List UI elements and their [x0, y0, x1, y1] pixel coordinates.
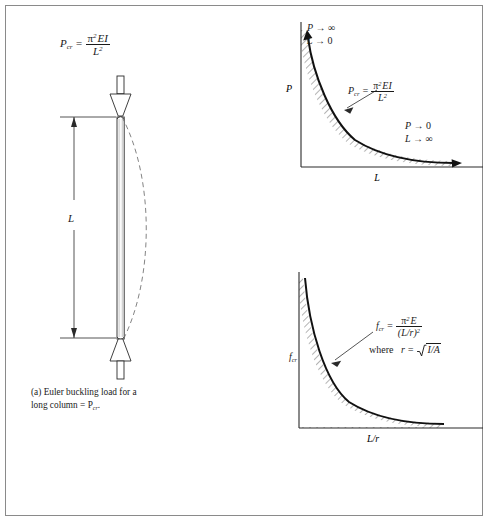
- chart-b-curve-formula: Pcr = π2 EI L2: [348, 80, 394, 103]
- panel-b-chart: P L P → ∞ L → 0 P → 0 L → ∞ Pcr = π2 EI …: [245, 0, 489, 240]
- caption-a-text: (a) Euler buckling load for a long colum…: [31, 387, 137, 410]
- chart-c-where-clause: where r = I/A: [369, 343, 441, 355]
- chart-b-annotation-bottom-line1: P → 0: [405, 120, 433, 133]
- top-knife-edge-support: [110, 94, 131, 116]
- dimension-line-L: [71, 117, 77, 338]
- chart-c-callout-arrow: [331, 361, 341, 367]
- bottom-support-rod: [117, 361, 124, 379]
- radical-expression: I/A: [417, 343, 441, 355]
- caption-a: (a) Euler buckling load for a long colum…: [31, 386, 221, 411]
- chart-b-annotation-top: P → ∞ L → 0: [307, 22, 335, 47]
- formula-a-numerator: π2 EI: [86, 32, 110, 44]
- chart-c-formula-fraction: π2 E (L/r)2: [396, 315, 422, 338]
- where-var: r: [401, 344, 405, 355]
- chart-b-x-tick-label: L: [373, 172, 380, 183]
- panel-a-column-diagram: Pcr = π2 EI L2: [0, 0, 245, 522]
- formula-a-lhs: P: [60, 37, 67, 49]
- chart-c-callout-leader: [335, 332, 373, 360]
- dimension-label-L: L: [68, 212, 74, 224]
- radicand: I/A: [426, 343, 441, 355]
- caption-a-tail: .: [98, 400, 100, 410]
- buckled-shape-dashed: [122, 117, 146, 338]
- chart-c-curve-formula: fcr = π2 E (L/r)2: [376, 315, 422, 338]
- chart-b-annotation-top-line2: L → 0: [307, 35, 335, 48]
- chart-b-curve-arrow-right: [452, 159, 462, 167]
- panel-a-formula: Pcr = π2 EI L2: [60, 32, 110, 58]
- where-equals: =: [407, 344, 414, 355]
- column-drawing: [50, 72, 195, 384]
- chart-c-x-tick-label: L/r: [366, 433, 379, 444]
- chart-b-formula-fraction: π2 EI L2: [371, 80, 394, 103]
- chart-b-annotation-bottom-line2: L → ∞: [405, 133, 433, 146]
- formula-a-numerator-rest: EI: [98, 32, 108, 44]
- formula-a-den-exp: 2: [99, 46, 103, 54]
- formula-a-denominator: L2: [86, 44, 110, 57]
- chart-b-annotation-bottom: P → 0 L → ∞: [405, 120, 433, 145]
- formula-a-lhs-sub: cr: [67, 43, 73, 51]
- column-member: [117, 117, 124, 340]
- panel-c-chart: L/r fcr fcr = π2 E (L/r)2 where r = I/A: [245, 240, 489, 522]
- chart-b-annotation-top-line1: P → ∞: [307, 22, 335, 35]
- chart-b-y-tick-label: P: [285, 83, 292, 94]
- formula-a-fraction: π2 EI L2: [86, 32, 110, 58]
- chart-c-y-tick-label: fcr: [289, 351, 297, 362]
- where-keyword: where: [369, 344, 393, 355]
- formula-a-equals: =: [75, 37, 82, 49]
- radical-sign-icon: [417, 344, 426, 357]
- formula-a-pi-exp: 2: [93, 32, 97, 40]
- figure-root: Pcr = π2 EI L2: [0, 0, 489, 522]
- top-load-rod: [117, 76, 124, 94]
- chart-b-callout-arrow: [344, 107, 353, 114]
- bottom-knife-edge-support: [110, 339, 131, 361]
